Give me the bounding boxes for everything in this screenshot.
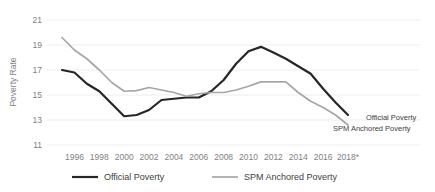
data-series-lines [62,38,348,126]
x-tick-label: 2004 [164,152,183,162]
y-tick-label: 19 [33,40,43,50]
x-tick-label: 2014 [289,152,308,162]
chart-legend: Official PovertySPM Anchored Poverty [72,172,338,182]
x-tick-label: 1996 [65,152,84,162]
poverty-rate-line-chart: 111315171921 199619982000200220042006200… [0,0,435,192]
series-end-label-official-poverty: Official Poverty [366,113,417,122]
chart-plot-area: 111315171921 199619982000200220042006200… [0,0,435,192]
y-tick-label: 17 [33,65,43,75]
x-tick-label: 1998 [90,152,109,162]
x-axis-tick-labels: 1996199820002002200420062008201020122014… [65,152,360,162]
y-tick-label: 11 [33,140,42,150]
series-end-label-spm-anchored-poverty: SPM Anchored Poverty [333,124,411,133]
x-tick-label: 2010 [239,152,258,162]
y-axis-title-text: Poverty Rate [8,57,18,106]
x-tick-label: 2012 [264,152,283,162]
x-tick-label: 2000 [115,152,134,162]
y-axis-title: Poverty Rate [8,57,18,106]
y-tick-label: 13 [33,115,43,125]
x-tick-label: 2018* [337,152,360,162]
x-tick-label: 2016 [314,152,333,162]
y-tick-label: 15 [33,90,43,100]
legend-label-spm-anchored-poverty: SPM Anchored Poverty [244,172,338,182]
series-line-official-poverty [62,47,348,116]
series-line-spm-anchored-poverty [62,38,348,126]
x-tick-label: 2006 [189,152,208,162]
x-tick-label: 2002 [140,152,159,162]
y-tick-label: 21 [33,15,43,25]
y-axis-tick-labels: 111315171921 [33,15,43,150]
x-tick-label: 2008 [214,152,233,162]
legend-label-official-poverty: Official Poverty [104,172,165,182]
